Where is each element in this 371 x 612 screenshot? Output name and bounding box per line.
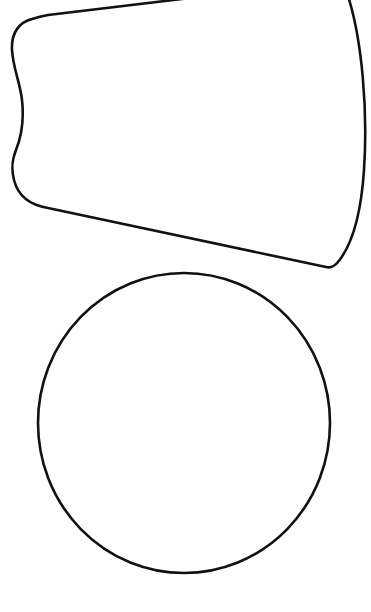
drawing-canvas (0, 0, 371, 612)
circle (38, 273, 330, 573)
